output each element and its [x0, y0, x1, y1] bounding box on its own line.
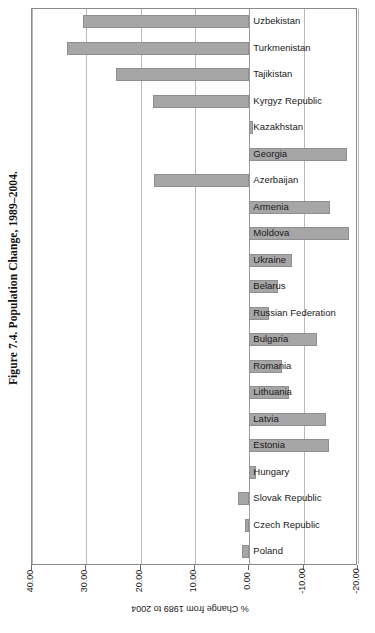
plot-area: UzbekistanTurkmenistanTajikistanKyrgyz R…	[31, 8, 357, 565]
bar-label-latvia: Latvia	[253, 411, 278, 427]
bar-row: Uzbekistan	[32, 9, 356, 36]
bar-label-hungary: Hungary	[253, 464, 289, 480]
bar-row: Lithuania	[32, 380, 356, 407]
bar-label-uzbekistan: Uzbekistan	[253, 13, 300, 29]
bar-label-belarus: Belarus	[253, 278, 285, 294]
bar-label-azerbaijan: Azerbaijan	[253, 172, 298, 188]
bar-label-lithuania: Lithuania	[253, 384, 292, 400]
bar-turkmenistan	[67, 42, 249, 55]
tick-label-30.00: 30.00	[79, 558, 91, 604]
figure-container: Figure 7.4. Population Change, 1989–2004…	[0, 0, 375, 633]
bar-label-estonia: Estonia	[253, 437, 285, 453]
bar-row: Kazakhstan	[32, 115, 356, 142]
bar-row: Georgia	[32, 142, 356, 169]
bar-uzbekistan	[83, 15, 249, 28]
bar-label-ukraine: Ukraine	[253, 252, 286, 268]
bar-czech-republic	[245, 519, 249, 532]
bar-kyrgyz-republic	[153, 95, 249, 108]
bar-label-slovak-republic: Slovak Republic	[253, 490, 321, 506]
bar-label-czech-republic: Czech Republic	[253, 517, 320, 533]
bar-label-armenia: Armenia	[253, 199, 288, 215]
bar-row: Belarus	[32, 274, 356, 301]
tick-label--20.00: -20.00	[351, 558, 363, 604]
bar-row: Moldova	[32, 221, 356, 248]
bar-label-turkmenistan: Turkmenistan	[253, 40, 310, 56]
bar-row: Tajikistan	[32, 62, 356, 89]
bar-row: Bulgaria	[32, 327, 356, 354]
figure-caption: Figure 7.4. Population Change, 1989–2004…	[7, 153, 23, 403]
bar-kazakhstan	[249, 121, 252, 134]
bar-label-moldova: Moldova	[253, 225, 289, 241]
bar-label-kyrgyz-republic: Kyrgyz Republic	[253, 93, 322, 109]
tick-label-40.00: 40.00	[25, 558, 37, 604]
bar-row: Hungary	[32, 460, 356, 487]
gridline--20.00	[358, 9, 359, 564]
tick-label-10.00: 10.00	[188, 558, 200, 604]
bar-row: Ukraine	[32, 248, 356, 275]
bar-row: Estonia	[32, 433, 356, 460]
bar-row: Kyrgyz Republic	[32, 89, 356, 116]
tick-label--10.00: -10.00	[297, 558, 309, 604]
tick-label-20.00: 20.00	[134, 558, 146, 604]
bar-label-bulgaria: Bulgaria	[253, 331, 288, 347]
bar-label-tajikistan: Tajikistan	[253, 66, 292, 82]
bar-label-poland: Poland	[253, 543, 283, 559]
bar-slovak-republic	[238, 492, 249, 505]
bar-row: Latvia	[32, 407, 356, 434]
bar-poland	[242, 545, 250, 558]
bar-row: Czech Republic	[32, 513, 356, 540]
x-axis-title: % Change from 1989 to 2004	[105, 600, 275, 614]
bar-label-kazakhstan: Kazakhstan	[253, 119, 303, 135]
bar-tajikistan	[116, 68, 249, 81]
bar-azerbaijan	[154, 174, 250, 187]
bar-label-georgia: Georgia	[253, 146, 287, 162]
bar-row: Romania	[32, 354, 356, 381]
bar-row: Azerbaijan	[32, 168, 356, 195]
bar-series: UzbekistanTurkmenistanTajikistanKyrgyz R…	[32, 9, 356, 564]
bar-label-russian-federation: Russian Federation	[253, 305, 335, 321]
bar-label-romania: Romania	[253, 358, 291, 374]
bar-row: Armenia	[32, 195, 356, 222]
bar-row: Russian Federation	[32, 301, 356, 328]
bar-row: Slovak Republic	[32, 486, 356, 513]
bar-row: Turkmenistan	[32, 36, 356, 63]
tick-label-0.00: 0.00	[242, 558, 254, 604]
